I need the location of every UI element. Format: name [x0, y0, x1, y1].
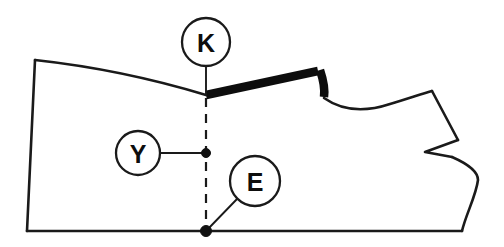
balance-notch [425, 140, 458, 157]
leader-line-e [206, 198, 238, 231]
point-marker-y [202, 149, 211, 158]
pattern-neck-curve [324, 91, 432, 109]
callout-e-label: E [247, 168, 264, 196]
pattern-top-curve [35, 60, 206, 95]
shoulder-seam-line [206, 71, 318, 95]
point-marker-e [201, 226, 212, 237]
callout-y[interactable]: Y [116, 131, 160, 175]
pattern-diagram-root: K Y E [0, 0, 504, 247]
callout-y-label: Y [130, 140, 147, 168]
pattern-right-lower-edge [452, 157, 478, 231]
point-markers-group [201, 149, 212, 237]
pattern-diagram-svg: K Y E [0, 0, 504, 247]
shoulder-seam-hook [320, 70, 324, 97]
callout-k[interactable]: K [182, 18, 230, 66]
pattern-right-upper-edge [432, 91, 458, 140]
shoulder-seam-group [206, 70, 324, 97]
pattern-left-edge [27, 60, 35, 231]
callout-e[interactable]: E [230, 156, 280, 206]
callout-k-label: K [197, 29, 215, 57]
